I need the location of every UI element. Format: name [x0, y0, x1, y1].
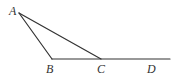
label-d: D [146, 62, 156, 76]
label-a: A [8, 4, 17, 18]
label-c: C [97, 62, 106, 76]
segment-ab [19, 13, 52, 59]
segment-ac [19, 13, 101, 59]
label-b: B [46, 62, 54, 76]
triangle-diagram: A B C D [0, 0, 180, 77]
